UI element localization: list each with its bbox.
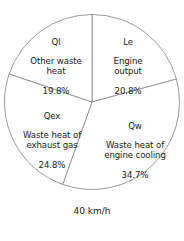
pie-slice-group [4, 15, 179, 190]
pie-chart-canvas [0, 0, 184, 241]
chart-caption: 40 km/h [0, 206, 184, 216]
pie-chart-figure: Ql Other waste heat 19.8% Le Engine outp… [0, 0, 184, 241]
